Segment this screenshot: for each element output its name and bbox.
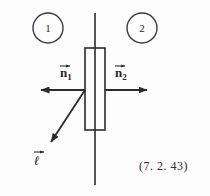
n2-vector-label: n2 <box>115 66 127 79</box>
region-2-label: 2 <box>127 23 157 34</box>
n2-subscript: 2 <box>122 72 127 82</box>
n1-subscript: 1 <box>67 72 72 82</box>
figure-container: 1 2 n1 n2 ℓ (7. 2. 43) <box>0 0 210 196</box>
l-vector-label: ℓ <box>34 152 40 168</box>
l-base-glyph: ℓ <box>34 153 40 168</box>
equation-number: (7. 2. 43) <box>139 160 188 172</box>
n1-vector-label: n1 <box>60 66 72 79</box>
region-1-label: 1 <box>33 23 63 34</box>
l-vector-arrow <box>51 90 85 142</box>
